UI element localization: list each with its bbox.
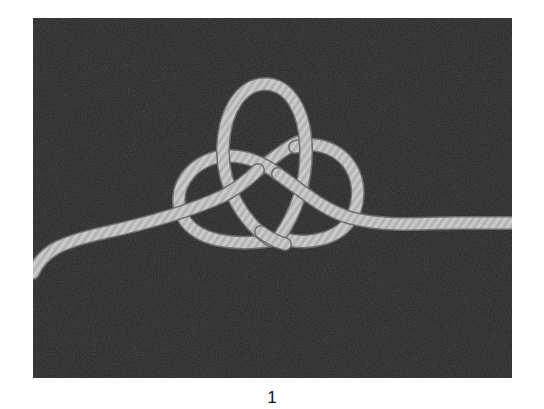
figure: 1 bbox=[0, 0, 544, 409]
figure-caption: 1 bbox=[0, 388, 544, 408]
knot-photo bbox=[33, 18, 512, 378]
trefoil-knot-illustration bbox=[33, 18, 512, 378]
